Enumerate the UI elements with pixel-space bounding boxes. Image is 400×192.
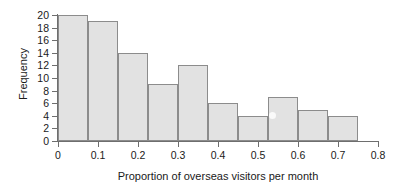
x-tick-label: 0.6 xyxy=(283,149,313,161)
y-tick-mark xyxy=(52,103,57,104)
histogram-bar xyxy=(118,53,148,141)
y-tick-label: 0 xyxy=(28,136,49,146)
x-tick-mark xyxy=(138,142,139,147)
x-tick-label: 0 xyxy=(43,149,73,161)
histogram-bar xyxy=(58,15,88,141)
scan-artifact-speck xyxy=(269,112,276,119)
y-tick-label: 18 xyxy=(28,23,49,33)
y-tick-label: 14 xyxy=(28,48,49,58)
y-tick-label: 12 xyxy=(28,60,49,70)
x-tick-label: 0.5 xyxy=(243,149,273,161)
y-tick-mark xyxy=(52,116,57,117)
x-tick-label: 0.3 xyxy=(163,149,193,161)
plot-area xyxy=(58,15,378,141)
histogram-bar xyxy=(238,116,268,141)
y-tick-label: 4 xyxy=(28,111,49,121)
x-tick-mark xyxy=(58,142,59,147)
x-tick-label: 0.4 xyxy=(203,149,233,161)
histogram-bar xyxy=(88,21,118,141)
y-tick-label: 8 xyxy=(28,86,49,96)
x-tick-mark xyxy=(178,142,179,147)
y-tick-mark xyxy=(52,65,57,66)
y-tick-label: 2 xyxy=(28,123,49,133)
x-tick-label: 0.2 xyxy=(123,149,153,161)
x-tick-mark xyxy=(218,142,219,147)
histogram-bar xyxy=(298,110,328,142)
x-axis-title: Proportion of overseas visitors per mont… xyxy=(58,170,378,182)
x-tick-label: 0.8 xyxy=(363,149,393,161)
y-tick-label: 6 xyxy=(28,98,49,108)
y-tick-mark xyxy=(52,53,57,54)
x-tick-label: 0.7 xyxy=(323,149,353,161)
histogram-bar xyxy=(148,84,178,141)
y-tick-mark xyxy=(52,28,57,29)
x-tick-mark xyxy=(378,142,379,147)
y-tick-mark xyxy=(52,141,57,142)
x-tick-mark xyxy=(338,142,339,147)
x-tick-label: 0.1 xyxy=(83,149,113,161)
x-tick-mark xyxy=(258,142,259,147)
histogram-bar xyxy=(208,103,238,141)
y-tick-mark xyxy=(52,40,57,41)
y-tick-mark xyxy=(52,128,57,129)
y-tick-mark xyxy=(52,78,57,79)
histogram-bar xyxy=(328,116,358,141)
x-tick-mark xyxy=(298,142,299,147)
y-tick-label: 20 xyxy=(28,10,49,20)
y-tick-mark xyxy=(52,15,57,16)
histogram-bar xyxy=(178,65,208,141)
histogram-figure: Frequency Proportion of overseas visitor… xyxy=(0,0,400,192)
y-tick-label: 16 xyxy=(28,35,49,45)
y-tick-mark xyxy=(52,91,57,92)
x-tick-mark xyxy=(98,142,99,147)
y-tick-label: 10 xyxy=(28,73,49,83)
